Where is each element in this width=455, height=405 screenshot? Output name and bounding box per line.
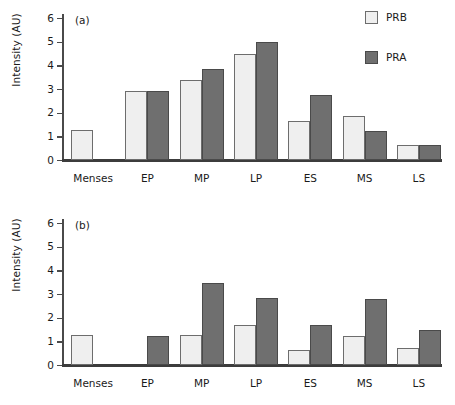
x-tick-label-a-ep: EP — [116, 172, 178, 184]
y-axis-line-b — [62, 219, 64, 365]
y-axis-title-b: Intensity (AU) — [10, 195, 22, 315]
x-tick-label-a-es: ES — [279, 172, 341, 184]
bar-b-mp-pra — [202, 283, 224, 365]
bar-b-lp-pra — [256, 298, 278, 365]
bar-group-b-ls — [397, 223, 441, 365]
bar-b-ms-prb — [343, 336, 365, 365]
legend-label-pra: PRA — [386, 51, 406, 63]
bar-group-b-menses — [71, 223, 115, 365]
x-tick-label-b-lp: LP — [225, 377, 287, 389]
x-tick-label-a-ms: MS — [334, 172, 396, 184]
x-tick-label-b-es: ES — [279, 377, 341, 389]
chart-panel-a: Intensity (AU) (a) 0123456 PRB PRA Mense… — [0, 0, 455, 200]
bar-group-a-menses — [71, 18, 115, 160]
y-tick-b-2 — [57, 318, 62, 319]
y-tick-b-5 — [57, 247, 62, 248]
y-tick-b-1 — [57, 341, 62, 342]
y-axis-line-a — [62, 14, 64, 160]
bar-b-ls-prb — [397, 348, 419, 365]
legend-swatch-pra-icon — [365, 51, 378, 64]
bar-b-ms-pra — [365, 299, 387, 365]
bar-group-b-mp — [180, 223, 224, 365]
bar-group-b-es — [288, 223, 332, 365]
y-tick-label-b-4: 4 — [38, 265, 54, 276]
y-tick-b-4 — [57, 270, 62, 271]
bar-group-a-mp — [180, 18, 224, 160]
y-tick-a-0 — [57, 160, 62, 161]
bar-a-ep-prb — [125, 91, 147, 160]
bar-a-lp-prb — [234, 54, 256, 160]
bar-b-ep-pra — [147, 336, 169, 365]
bar-group-b-lp — [234, 223, 278, 365]
y-tick-label-a-2: 2 — [38, 107, 54, 118]
legend-label-prb: PRB — [386, 11, 407, 23]
bar-a-ms-prb — [343, 116, 365, 160]
bar-a-menses-prb — [71, 130, 93, 160]
y-tick-label-b-3: 3 — [38, 289, 54, 300]
y-tick-label-a-5: 5 — [38, 36, 54, 47]
bar-group-b-ms — [343, 223, 387, 365]
x-tick-label-a-ls: LS — [388, 172, 450, 184]
plot-area-b: 0123456 — [62, 223, 442, 365]
x-tick-label-a-lp: LP — [225, 172, 287, 184]
y-tick-label-b-2: 2 — [38, 312, 54, 323]
y-tick-a-5 — [57, 42, 62, 43]
bar-a-ms-pra — [365, 131, 387, 160]
y-tick-label-a-6: 6 — [38, 13, 54, 24]
y-tick-label-a-3: 3 — [38, 84, 54, 95]
bar-group-a-ep — [125, 18, 169, 160]
y-tick-label-a-1: 1 — [38, 131, 54, 142]
bar-a-mp-pra — [202, 69, 224, 160]
x-tick-label-b-ms: MS — [334, 377, 396, 389]
y-axis-title-a: Intensity (AU) — [10, 0, 22, 110]
bar-b-menses-prb — [71, 335, 93, 365]
y-tick-a-4 — [57, 65, 62, 66]
x-tick-label-b-mp: MP — [171, 377, 233, 389]
bar-b-mp-prb — [180, 335, 202, 365]
y-tick-b-0 — [57, 365, 62, 366]
bar-b-es-pra — [310, 325, 332, 365]
bar-a-ls-prb — [397, 145, 419, 160]
bar-a-lp-pra — [256, 42, 278, 160]
y-tick-a-3 — [57, 89, 62, 90]
bar-a-es-prb — [288, 121, 310, 160]
legend-swatch-prb-icon — [365, 11, 378, 24]
bar-a-ls-pra — [419, 145, 441, 160]
y-tick-label-b-6: 6 — [38, 218, 54, 229]
legend-item-prb: PRB — [365, 10, 447, 24]
legend-item-pra: PRA — [365, 50, 447, 64]
y-tick-label-b-1: 1 — [38, 336, 54, 347]
legend: PRB PRA — [365, 10, 447, 90]
y-tick-b-3 — [57, 294, 62, 295]
y-tick-a-1 — [57, 136, 62, 137]
bar-group-b-ep — [125, 223, 169, 365]
bar-b-ls-pra — [419, 330, 441, 365]
x-tick-label-a-menses: Menses — [62, 172, 124, 184]
y-tick-label-a-4: 4 — [38, 60, 54, 71]
bar-a-ep-pra — [147, 91, 169, 160]
x-tick-label-b-ls: LS — [388, 377, 450, 389]
x-tick-label-b-menses: Menses — [62, 377, 124, 389]
figure-root: Intensity (AU) (a) 0123456 PRB PRA Mense… — [0, 0, 455, 405]
chart-panel-b: Intensity (AU) (b) 0123456 MensesEPMPLPE… — [0, 205, 455, 405]
y-tick-a-2 — [57, 113, 62, 114]
bar-group-a-es — [288, 18, 332, 160]
x-tick-label-a-mp: MP — [171, 172, 233, 184]
y-tick-label-b-0: 0 — [38, 360, 54, 371]
y-tick-a-6 — [57, 18, 62, 19]
bar-a-es-pra — [310, 95, 332, 160]
bar-group-a-lp — [234, 18, 278, 160]
x-tick-label-b-ep: EP — [116, 377, 178, 389]
bar-a-mp-prb — [180, 80, 202, 160]
bar-b-lp-prb — [234, 325, 256, 365]
y-tick-label-a-0: 0 — [38, 155, 54, 166]
y-tick-b-6 — [57, 223, 62, 224]
y-tick-label-b-5: 5 — [38, 241, 54, 252]
bar-b-es-prb — [288, 350, 310, 365]
